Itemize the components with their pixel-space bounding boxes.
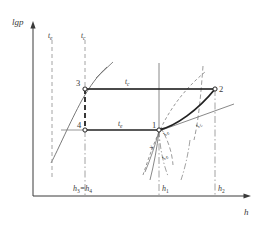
x-axis-label: h bbox=[244, 207, 249, 217]
point-2-label: 2 bbox=[219, 84, 223, 94]
tc-line-3-2-label: tc bbox=[125, 77, 130, 87]
isotherm-guides-group bbox=[52, 40, 85, 178]
point-4-label: 4 bbox=[77, 120, 82, 130]
tc-right-upper-label: tc bbox=[193, 120, 204, 129]
tc-isotherm-dashdot bbox=[181, 140, 190, 180]
te-lower-right-label: te bbox=[159, 152, 170, 161]
te-line-4-1-label: te bbox=[118, 119, 123, 129]
point-1-label: 1 bbox=[152, 120, 156, 130]
ph-diagram-svg: lgp h bbox=[0, 0, 267, 225]
point-3-marker bbox=[83, 87, 87, 91]
tc-top-left-label: tc bbox=[81, 31, 86, 41]
te-isotherm-dashdot bbox=[159, 131, 168, 176]
isochore-line-left bbox=[96, 62, 113, 78]
y-axis-label: lgp bbox=[12, 17, 24, 27]
point-4-marker bbox=[83, 128, 87, 132]
process-1-to-2-compression bbox=[159, 89, 215, 130]
h1-label: h1 bbox=[162, 184, 169, 194]
te-top-left-label: te bbox=[48, 31, 53, 41]
point-2-marker bbox=[213, 87, 217, 91]
point-3-label: 3 bbox=[76, 78, 80, 88]
ph-diagram-figure: lgp h bbox=[0, 0, 267, 225]
h2-label: h2 bbox=[218, 184, 225, 194]
h3-equals-h4-label: h3=h4 bbox=[73, 184, 92, 194]
y-axis-arrow bbox=[30, 21, 35, 29]
x-axis-arrow bbox=[244, 193, 252, 198]
